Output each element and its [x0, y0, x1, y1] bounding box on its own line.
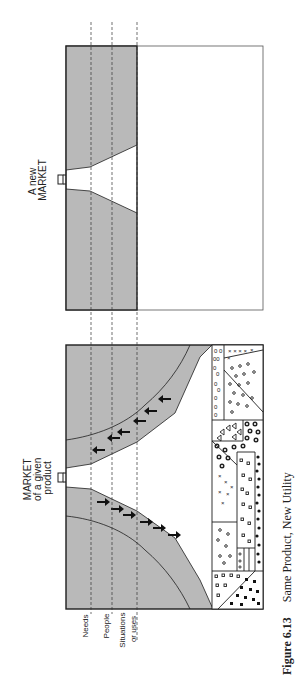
svg-text:×: ×	[250, 347, 254, 353]
svg-text:0 0: 0 0	[214, 348, 223, 354]
svg-text:×: ×	[221, 500, 225, 506]
given-market-pointer-icon	[58, 473, 66, 482]
figure-title: Same Product, New Utility	[280, 472, 294, 602]
given-market-label: MARKET of a given product	[22, 455, 53, 501]
left-panel: MARKET of a given product	[22, 345, 263, 609]
axis-label-people: People	[102, 613, 111, 638]
figure-diagram: A new MARKET	[0, 0, 298, 675]
right-panel: A new MARKET	[27, 46, 263, 310]
svg-text:×: ×	[227, 355, 231, 361]
svg-text:00: 00	[213, 356, 220, 362]
axis-label-needs: Needs	[81, 614, 90, 637]
new-market-label: A new MARKET	[27, 159, 48, 201]
svg-text:×: ×	[218, 489, 222, 495]
svg-text:× × × ×: × × × ×	[228, 348, 248, 354]
svg-text:×: ×	[218, 473, 222, 479]
svg-text:×: ×	[226, 491, 230, 497]
new-market-pointer-icon	[58, 175, 66, 184]
svg-text:×: ×	[224, 479, 228, 485]
figure-caption: Figure 6.13 Same Product, New Utility	[280, 472, 294, 675]
figure-number: Figure 6.13	[280, 617, 294, 675]
svg-text:×: ×	[230, 484, 234, 490]
axis-label-situations: Situations or uses	[118, 610, 138, 647]
